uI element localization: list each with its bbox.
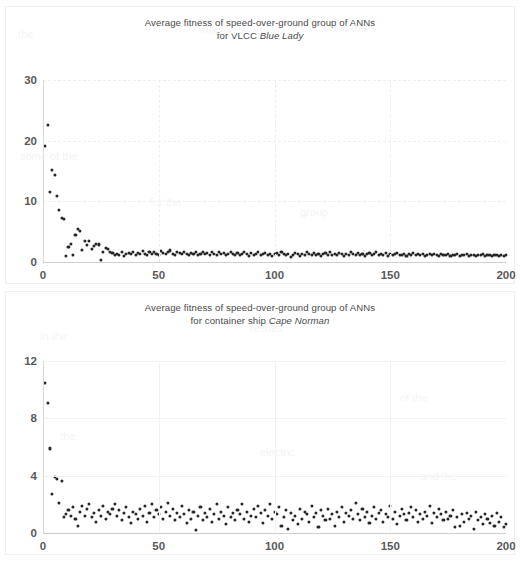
scatter-point: [129, 521, 132, 524]
chart-cape-norman: Average fitness of speed-over-ground gro…: [5, 291, 515, 555]
scatter-point: [204, 511, 207, 514]
scatter-point: [125, 506, 128, 509]
scatter-point: [294, 514, 297, 517]
scatter-point: [88, 240, 91, 243]
scatter-point: [106, 247, 109, 250]
scatter-point: [197, 514, 200, 517]
scatter-point: [146, 520, 149, 523]
scatter-point: [55, 477, 58, 480]
scatter-point: [280, 524, 283, 527]
scatter-point: [215, 503, 218, 506]
scatter-point: [477, 519, 480, 522]
plot-area-blue-lady: 0102030050100150200: [43, 80, 506, 262]
x-axis-tick-label: 100: [265, 269, 284, 281]
scatter-point: [150, 503, 153, 506]
scatter-point: [338, 516, 341, 519]
x-axis-tick-label: 200: [496, 540, 515, 552]
x-axis-tick-label: 50: [152, 269, 165, 281]
scatter-point: [285, 509, 288, 512]
scatter-point: [85, 507, 88, 510]
scatter-point: [102, 504, 105, 507]
scatter-point: [291, 519, 294, 522]
scatter-point: [166, 501, 169, 504]
chart-title-cape-norman: Average fitness of speed-over-ground gro…: [6, 292, 514, 327]
scatter-point: [403, 513, 406, 516]
scatter-point: [310, 504, 313, 507]
scatter-point: [454, 526, 457, 529]
y-axis-tick-label: 8: [31, 412, 37, 424]
scatter-point: [359, 519, 362, 522]
scatter-point: [62, 516, 65, 519]
scatter-point: [289, 511, 292, 514]
chart-title-ship-name: Cape Norman: [269, 315, 330, 326]
scatter-point: [146, 254, 149, 257]
scatter-point: [370, 514, 373, 517]
x-axis-line: [43, 533, 506, 534]
scatter-point: [78, 510, 81, 513]
chart-title-line-1: Average fitness of speed-over-ground gro…: [6, 301, 514, 314]
scatter-point: [282, 516, 285, 519]
scatter-point: [192, 510, 195, 513]
scatter-point: [407, 511, 410, 514]
scatter-point: [76, 524, 79, 527]
scatter-point: [58, 501, 61, 504]
scatter-point: [312, 516, 315, 519]
scatter-point: [308, 520, 311, 523]
scatter-point: [83, 240, 86, 243]
scatter-point: [393, 510, 396, 513]
scatter-point: [65, 254, 68, 257]
scatter-point: [349, 509, 352, 512]
scatter-point: [67, 245, 70, 248]
scatter-point: [243, 517, 246, 520]
x-axis-tick-label: 200: [496, 269, 515, 281]
scatter-point: [259, 511, 262, 514]
scatter-point: [386, 516, 389, 519]
scatter-point: [491, 514, 494, 517]
scatter-point: [51, 168, 54, 171]
scatter-point: [213, 513, 216, 516]
y-axis-tick-label: 0: [31, 527, 37, 539]
scatter-point: [502, 526, 505, 529]
scatter-point: [65, 513, 68, 516]
y-axis-tick-label: 12: [24, 355, 37, 367]
scatter-point: [44, 144, 47, 147]
scatter-point: [90, 516, 93, 519]
scatter-point: [81, 504, 84, 507]
scatter-point: [444, 510, 447, 513]
scatter-point: [222, 514, 225, 517]
scatter-point: [109, 513, 112, 516]
scatter-point: [208, 253, 211, 256]
plot-area-cape-norman: 04812050100150200: [43, 361, 506, 533]
scatter-point: [396, 523, 399, 526]
chart-title-prefix: for VLCC: [217, 30, 260, 41]
scatter-point: [97, 509, 100, 512]
scatter-point: [419, 513, 422, 516]
scatter-point: [442, 519, 445, 522]
scatter-point: [148, 511, 151, 514]
scatter-point: [382, 520, 385, 523]
scatter-point: [426, 514, 429, 517]
scatter-point: [55, 194, 58, 197]
scatter-point: [72, 506, 75, 509]
scatter-point: [116, 514, 119, 517]
scatter-point: [423, 510, 426, 513]
scatter-point: [69, 514, 72, 517]
scatter-point: [46, 123, 49, 126]
plot-wrap-cape-norman: 04812050100150200: [6, 332, 514, 556]
scatter-point: [379, 509, 382, 512]
scatter-point: [169, 514, 172, 517]
scatter-point: [53, 174, 56, 177]
y-axis-tick-label: 30: [24, 74, 37, 86]
scatter-point: [187, 509, 190, 512]
scatter-point: [498, 520, 501, 523]
scatter-point: [136, 517, 139, 520]
scatter-point: [340, 506, 343, 509]
gridline-vertical: [390, 361, 391, 533]
scatter-point: [118, 254, 121, 257]
scatter-point: [229, 516, 232, 519]
scatter-point: [449, 514, 452, 517]
scatter-point: [463, 520, 466, 523]
scatter-point: [72, 254, 75, 257]
scatter-point: [58, 208, 61, 211]
scatter-point: [92, 511, 95, 514]
